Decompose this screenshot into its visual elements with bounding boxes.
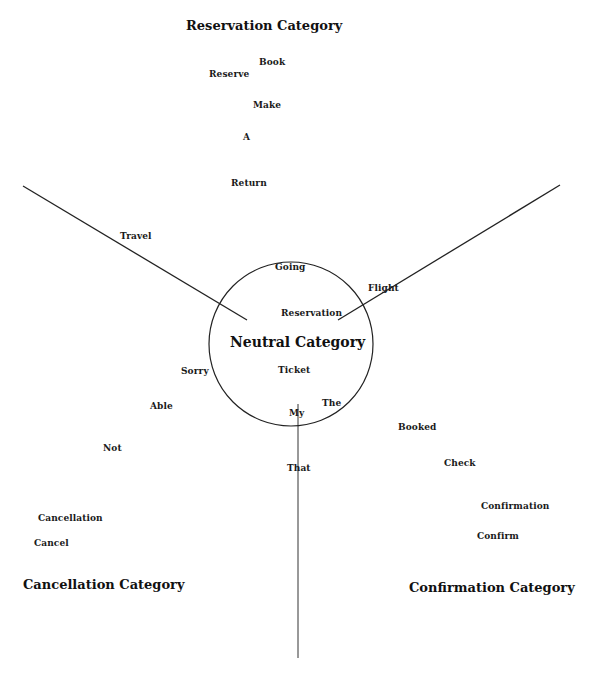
cancellation-category-label: Cancellation Category [23,578,185,591]
right-divider-line [338,185,560,320]
left-divider-line [23,186,247,320]
reservation-category-label: Reservation Category [186,19,342,32]
word-cancellation: Cancellation [38,514,103,523]
confirmation-category-label: Confirmation Category [409,581,575,594]
word-confirmation: Confirmation [481,502,549,511]
word-that: That [287,464,311,473]
neutral-category-label: Neutral Category [230,335,365,349]
word-the: The [322,399,341,408]
word-not: Not [103,444,122,453]
word-cancel: Cancel [34,539,69,548]
word-travel: Travel [120,232,152,241]
word-flight: Flight [368,284,399,293]
word-ticket: Ticket [278,366,310,375]
word-booked: Booked [398,423,436,432]
word-reservation: Reservation [281,309,342,318]
category-diagram: Reservation Category Neutral Category Ca… [0,0,589,681]
word-make: Make [253,101,281,110]
word-book: Book [259,58,285,67]
word-sorry: Sorry [181,367,209,376]
word-check: Check [444,459,476,468]
word-my: My [289,409,304,418]
word-able: Able [150,402,173,411]
word-reserve: Reserve [209,70,249,79]
word-a: A [243,133,250,142]
word-return: Return [231,179,267,188]
word-confirm: Confirm [477,532,519,541]
word-going: Going [275,263,305,272]
